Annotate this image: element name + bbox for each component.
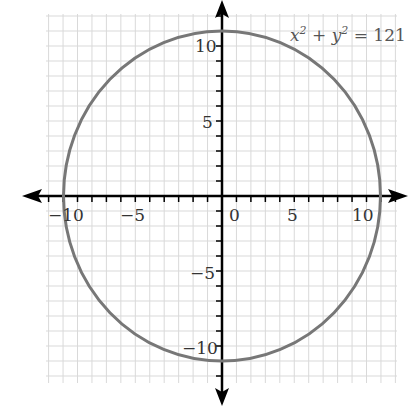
equation-label: x2 + y2 = 121 xyxy=(290,24,406,45)
x-tick-label: −5 xyxy=(120,205,145,225)
y-tick-label: −5 xyxy=(190,263,215,283)
y-tick-label: 5 xyxy=(202,112,213,132)
y-tick-label: 10 xyxy=(195,36,217,56)
x-tick-label: −10 xyxy=(48,205,84,225)
x-tick-label: 5 xyxy=(287,205,298,225)
x-axis xyxy=(22,189,408,203)
x-tick-label: 0 xyxy=(229,205,240,225)
chart-canvas: −10 −5 0 5 10 10 5 −5 −10 x2 + y2 = 121 xyxy=(0,0,408,409)
y-tick-label: −10 xyxy=(182,338,218,358)
x-tick-label: 10 xyxy=(352,205,374,225)
